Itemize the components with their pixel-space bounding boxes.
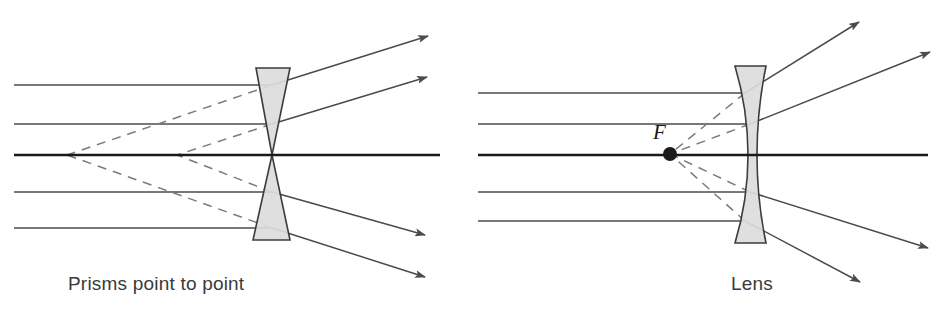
dashed-extension-2 — [670, 124, 750, 154]
prisms-incoming-rays — [14, 85, 272, 228]
dashed-extension-3 — [177, 155, 272, 192]
focal-point-marker — [663, 147, 677, 161]
outgoing-ray-4 — [272, 228, 425, 277]
lower-prism-shape — [253, 155, 290, 240]
caption-prisms: Prisms point to point — [68, 273, 244, 295]
panel-lens — [478, 22, 930, 282]
dashed-extension-2 — [177, 124, 272, 155]
dashed-extension-3 — [670, 154, 750, 192]
outgoing-ray-2 — [272, 77, 427, 124]
lens-outgoing-rays — [745, 22, 930, 282]
focal-point-label: F — [653, 120, 666, 145]
outgoing-ray-1 — [272, 36, 428, 85]
panel-prisms — [14, 36, 440, 277]
upper-prism-shape — [256, 68, 290, 155]
caption-lens: Lens — [731, 273, 773, 295]
outgoing-ray-2 — [750, 52, 930, 124]
dashed-extension-4 — [670, 154, 745, 221]
lens-incoming-rays — [478, 93, 750, 221]
dashed-extension-1 — [67, 85, 272, 155]
optics-ray-diagram-figure: F Prisms point to point Lens — [0, 0, 943, 320]
outgoing-ray-3 — [272, 192, 425, 235]
outgoing-ray-3 — [750, 192, 928, 248]
ray-diagram-canvas — [0, 0, 943, 320]
prisms-outgoing-rays — [272, 36, 428, 277]
lens-dashed-virtual-rays — [670, 93, 750, 221]
prisms-dashed-virtual-rays — [67, 85, 272, 228]
